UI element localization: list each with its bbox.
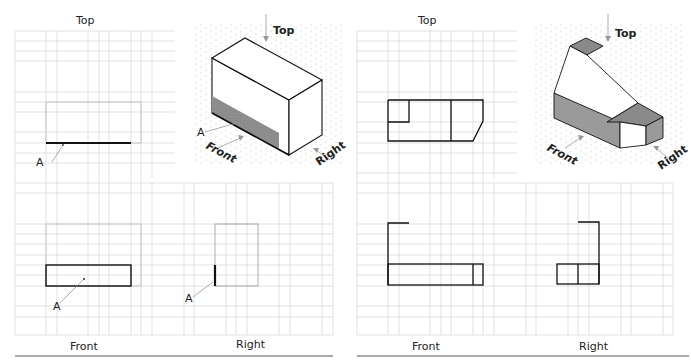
label-right-2: Right	[579, 340, 608, 353]
iso-label-a: A	[197, 126, 205, 139]
leader-a-right	[193, 282, 213, 297]
label-point-a-top: A	[36, 156, 44, 169]
isometric-block-1	[195, 14, 345, 164]
label-top-2: Top	[418, 14, 437, 27]
exercise-1	[15, 14, 345, 335]
front-view-surface-a	[46, 265, 131, 286]
top-view-box	[46, 102, 141, 143]
top-view-outline-2	[388, 100, 483, 141]
leader-a-top	[52, 145, 63, 162]
isometric-block-2	[535, 14, 685, 164]
front-view-outline-2	[388, 223, 483, 285]
label-point-a-front: A	[53, 300, 61, 313]
label-top-1: Top	[76, 14, 95, 27]
label-front-1: Front	[70, 340, 98, 353]
orthographic-projection-diagram	[0, 0, 691, 362]
iso-label-top-1: Top	[273, 24, 294, 37]
label-right-1: Right	[236, 338, 265, 351]
top-view-grid-2	[357, 31, 517, 178]
exercise-2	[357, 14, 685, 335]
leader-a-front	[60, 279, 84, 303]
label-point-a-right: A	[185, 292, 193, 305]
iso-label-top-2: Top	[615, 27, 636, 40]
front-right-grid	[15, 178, 333, 335]
label-front-2: Front	[412, 340, 440, 353]
front-right-grid-2	[357, 178, 673, 335]
